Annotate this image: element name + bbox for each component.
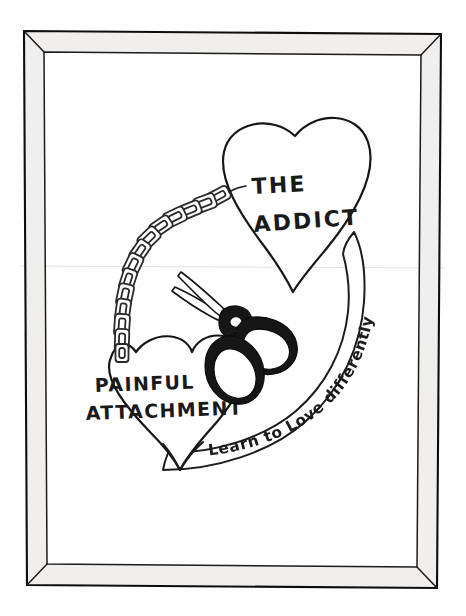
lower-heart-line1: PAINFUL bbox=[94, 371, 195, 396]
illustration-canvas: Learn to Love differently THE ADDICT PAI… bbox=[0, 0, 466, 616]
upper-heart-line1: THE bbox=[251, 171, 307, 199]
artboard: Learn to Love differently THE ADDICT PAI… bbox=[0, 0, 466, 616]
